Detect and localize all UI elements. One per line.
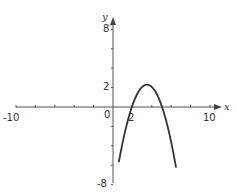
x-tick-label-min: -10	[3, 112, 19, 123]
x-axis-arrow-icon	[214, 104, 222, 110]
x-axis-name: x	[224, 101, 230, 112]
origin-label: 0	[104, 109, 110, 120]
x-axis	[16, 104, 222, 110]
y-axis-arrow-icon	[110, 17, 116, 25]
parabola-chart: x y -10 10 0 2 8 2 -8	[0, 0, 237, 193]
y-tick-label-max: 8	[103, 23, 109, 34]
y-axis	[110, 17, 116, 185]
y-tick-label-min: -8	[97, 178, 107, 189]
x-tick-label-max: 10	[203, 112, 216, 123]
y-tick-label-2: 2	[103, 81, 109, 92]
y-axis-name: y	[101, 11, 108, 22]
parabola-curve	[119, 85, 176, 168]
